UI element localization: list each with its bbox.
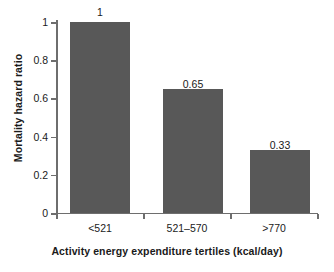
bar-value-1: 0.65 (183, 78, 203, 90)
x-axis-title: Activity energy expenditure tertiles (kc… (0, 245, 334, 257)
x-tick-mark (230, 214, 232, 219)
plot-area (56, 22, 318, 213)
bar-value-0: 1 (97, 6, 103, 18)
y-tick-label: 0.4 (33, 131, 48, 143)
x-tick-label-1: 521–570 (167, 222, 208, 234)
y-tick-label: 1 (42, 16, 48, 28)
bar-1 (163, 89, 223, 213)
y-tick-label: 0.2 (33, 169, 48, 181)
x-tick-label-0: <521 (88, 222, 112, 234)
y-axis-ticks: 1 0.8 0.6 0.4 0.2 0 (0, 0, 56, 272)
x-tick-mark (143, 214, 145, 219)
y-tick-label: 0.8 (33, 54, 48, 66)
bar-0 (70, 22, 130, 213)
bar-value-2: 0.33 (270, 139, 290, 151)
y-tick-label: 0 (42, 207, 48, 219)
x-tick-mark (317, 214, 319, 219)
bar-2 (250, 150, 310, 213)
y-tick-label: 0.6 (33, 92, 48, 104)
bar-chart-figure: Mortality hazard ratio 1 0.8 0.6 0.4 0.2… (0, 0, 334, 272)
x-tick-mark (56, 214, 58, 219)
x-tick-label-2: >770 (262, 222, 286, 234)
